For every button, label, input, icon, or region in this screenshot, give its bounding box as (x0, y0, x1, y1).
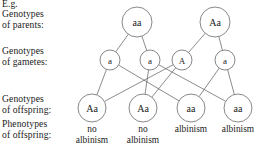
offspring-node-0: Aa (78, 94, 106, 122)
parent-gamete-link (189, 33, 206, 52)
gamete-offspring-link (152, 68, 176, 97)
parent-node-1: Aa (200, 7, 230, 37)
gamete-node-3: a (215, 50, 235, 70)
parent-gamete-link (219, 37, 223, 51)
parent-node-text: aa (133, 17, 142, 28)
gamete-node-text: A (179, 56, 186, 66)
gamete-node-2: A (172, 50, 192, 70)
offspring-node-text: aa (234, 103, 243, 114)
parent-gamete-link (116, 34, 129, 52)
gamete-node-0: a (100, 50, 120, 70)
gamete-offspring-link (97, 69, 107, 95)
offspring-node-3: aa (224, 94, 252, 122)
phenotype-caption-2: albinism (175, 124, 207, 135)
gamete-node-1: a (140, 50, 160, 70)
genetics-inheritance-diagram: E.g. Genotypes of parents: Genotypes of … (0, 0, 267, 148)
parent-node-0: aa (122, 7, 152, 37)
phenotype-caption-3: albinism (222, 124, 254, 135)
offspring-node-2: aa (177, 94, 205, 122)
offspring-node-text: Aa (137, 103, 149, 114)
gamete-offspring-link (228, 70, 235, 95)
phenotype-caption-1: no albinism (127, 124, 159, 146)
gamete-offspring-link (145, 70, 149, 94)
offspring-node-1: Aa (129, 94, 157, 122)
gamete-node-text: a (223, 56, 227, 66)
parent-node-text: Aa (209, 17, 221, 28)
gamete-node-text: a (108, 56, 112, 66)
gamete-node-text: a (148, 56, 152, 66)
offspring-node-text: Aa (86, 103, 98, 114)
genotype-nodes-group: aaAaaaAaAaAaaaaa (78, 7, 252, 122)
phenotype-caption-0: no albinism (76, 124, 108, 146)
offspring-node-text: aa (187, 103, 196, 114)
connector-lines-group (97, 33, 234, 101)
parent-gamete-link (142, 36, 147, 50)
